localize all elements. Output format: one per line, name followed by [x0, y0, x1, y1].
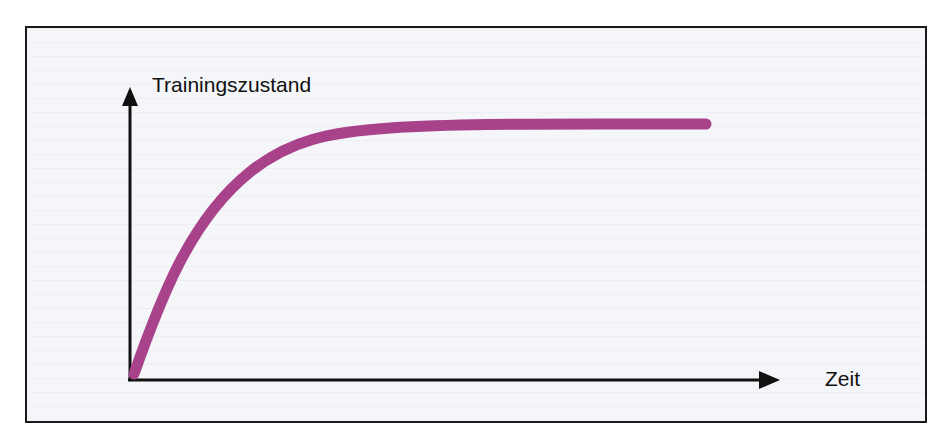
training-curve — [134, 124, 706, 374]
y-axis-arrow-icon — [122, 87, 138, 106]
y-axis-label: Trainingszustand — [152, 73, 311, 97]
x-axis-arrow-icon — [759, 371, 780, 389]
chart-canvas — [0, 0, 950, 445]
x-axis-label: Zeit — [825, 367, 860, 391]
